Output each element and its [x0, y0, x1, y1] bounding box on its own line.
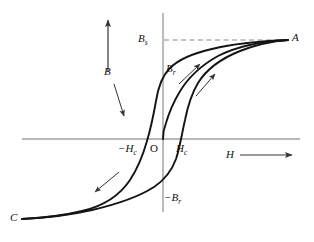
remanence-positive-subscript: r: [173, 68, 176, 77]
initial-magnetization-curve: [163, 40, 288, 139]
coercivity-positive-label: Hc: [176, 143, 187, 154]
point-c-label: C: [10, 212, 17, 223]
ascending-branch-curve: [22, 40, 288, 219]
saturation-label: Bs: [138, 33, 148, 44]
descending-branch-curve: [22, 40, 288, 219]
h-axis-label: H: [226, 149, 234, 160]
remanence-positive-label: Br: [166, 63, 176, 74]
descending-lower-arrow-icon: [95, 172, 119, 192]
ascending-inner-arrow-icon: [179, 64, 200, 84]
ascending-outer-arrow-icon: [196, 74, 215, 96]
b-axis-label: B: [104, 66, 111, 77]
coercivity-negative-subscript: c: [133, 148, 136, 157]
saturation-subscript: s: [145, 38, 148, 47]
remanence-negative-subscript: r: [178, 197, 181, 206]
origin-label: O: [150, 143, 158, 154]
coercivity-negative-label: −Hc: [118, 143, 137, 154]
hysteresis-loop-figure: A ===== --> B H O Bs Br: [0, 0, 314, 242]
descending-upper-arrow-icon: [114, 84, 124, 116]
point-a-label: A: [292, 32, 299, 43]
hysteresis-plot-svg: A ===== -->: [0, 0, 314, 242]
coercivity-positive-subscript: c: [184, 148, 187, 157]
remanence-negative-label: −Br: [164, 192, 181, 203]
